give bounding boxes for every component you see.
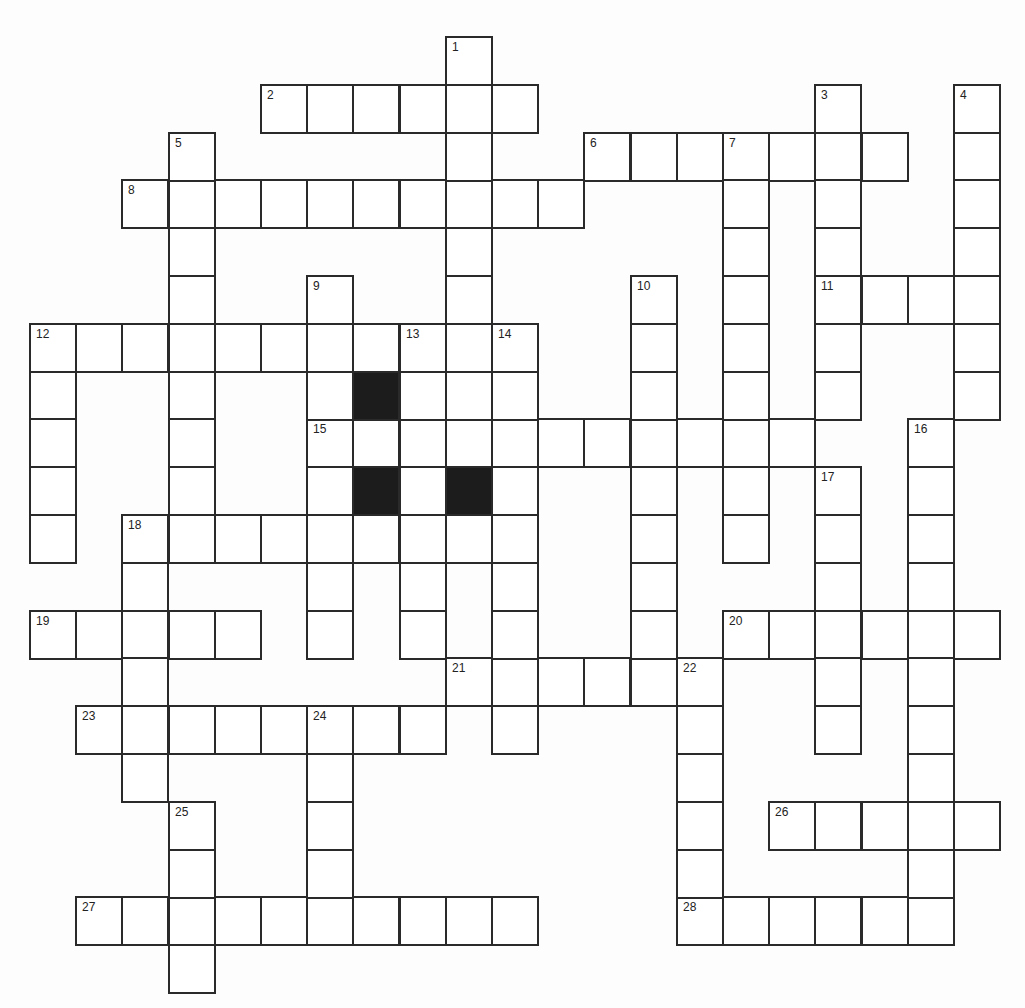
grid-cell[interactable] (306, 84, 354, 134)
grid-cell[interactable]: 26 (768, 801, 816, 851)
grid-cell[interactable] (537, 657, 585, 707)
letter-input[interactable] (493, 86, 537, 132)
grid-cell[interactable] (814, 801, 862, 851)
grid-cell[interactable] (445, 132, 493, 182)
grid-cell[interactable] (630, 514, 678, 564)
letter-input[interactable] (585, 134, 629, 180)
grid-cell[interactable] (306, 562, 354, 612)
grid-cell[interactable] (121, 753, 169, 803)
grid-cell[interactable] (168, 849, 216, 899)
letter-input[interactable] (447, 325, 491, 371)
letter-input[interactable] (632, 420, 676, 466)
grid-cell[interactable] (445, 323, 493, 373)
grid-cell[interactable] (121, 705, 169, 755)
letter-input[interactable] (123, 898, 167, 944)
letter-input[interactable] (170, 420, 214, 466)
grid-cell[interactable] (630, 657, 678, 707)
grid-cell[interactable] (445, 84, 493, 134)
grid-cell[interactable] (814, 323, 862, 373)
letter-input[interactable] (308, 564, 352, 610)
grid-cell[interactable] (29, 466, 77, 516)
grid-cell[interactable] (630, 562, 678, 612)
letter-input[interactable] (123, 181, 167, 227)
letter-input[interactable] (401, 707, 445, 753)
grid-cell[interactable] (814, 132, 862, 182)
grid-cell[interactable]: 24 (306, 705, 354, 755)
grid-cell[interactable]: 9 (306, 275, 354, 325)
grid-cell[interactable]: 25 (168, 801, 216, 851)
grid-cell[interactable] (399, 705, 447, 755)
grid-cell[interactable] (29, 371, 77, 421)
grid-cell[interactable] (722, 371, 770, 421)
grid-cell[interactable] (168, 275, 216, 325)
letter-input[interactable] (539, 420, 583, 466)
letter-input[interactable] (262, 516, 306, 562)
letter-input[interactable] (77, 707, 121, 753)
letter-input[interactable] (170, 229, 214, 275)
grid-cell[interactable] (306, 466, 354, 516)
letter-input[interactable] (170, 277, 214, 323)
letter-input[interactable] (308, 373, 352, 419)
letter-input[interactable] (816, 134, 860, 180)
grid-cell[interactable]: 5 (168, 132, 216, 182)
grid-cell[interactable] (491, 418, 539, 468)
grid-cell[interactable] (121, 657, 169, 707)
letter-input[interactable] (724, 325, 768, 371)
grid-cell[interactable] (399, 466, 447, 516)
grid-cell[interactable]: 23 (75, 705, 123, 755)
grid-cell[interactable] (168, 227, 216, 277)
grid-cell[interactable]: 13 (399, 323, 447, 373)
letter-input[interactable] (308, 420, 352, 466)
grid-cell[interactable] (352, 323, 400, 373)
letter-input[interactable] (308, 755, 352, 801)
letter-input[interactable] (216, 707, 260, 753)
grid-cell[interactable] (399, 371, 447, 421)
letter-input[interactable] (493, 659, 537, 705)
letter-input[interactable] (170, 468, 214, 514)
grid-cell[interactable] (907, 514, 955, 564)
letter-input[interactable] (170, 134, 214, 180)
grid-cell[interactable] (260, 323, 308, 373)
grid-cell[interactable] (630, 371, 678, 421)
letter-input[interactable] (632, 134, 676, 180)
letter-input[interactable] (493, 420, 537, 466)
letter-input[interactable] (724, 516, 768, 562)
letter-input[interactable] (31, 612, 75, 658)
letter-input[interactable] (493, 898, 537, 944)
grid-cell[interactable]: 21 (445, 657, 493, 707)
grid-cell[interactable] (861, 896, 909, 946)
letter-input[interactable] (170, 707, 214, 753)
grid-cell[interactable] (768, 418, 816, 468)
letter-input[interactable] (447, 659, 491, 705)
grid-cell[interactable] (676, 705, 724, 755)
letter-input[interactable] (216, 181, 260, 227)
letter-input[interactable] (724, 420, 768, 466)
grid-cell[interactable]: 2 (260, 84, 308, 134)
letter-input[interactable] (724, 181, 768, 227)
grid-cell[interactable] (168, 514, 216, 564)
grid-cell[interactable] (399, 562, 447, 612)
letter-input[interactable] (909, 516, 953, 562)
letter-input[interactable] (816, 325, 860, 371)
grid-cell[interactable] (168, 179, 216, 229)
letter-input[interactable] (123, 659, 167, 705)
letter-input[interactable] (447, 38, 491, 84)
letter-input[interactable] (170, 373, 214, 419)
letter-input[interactable] (308, 86, 352, 132)
letter-input[interactable] (354, 325, 398, 371)
grid-cell[interactable]: 10 (630, 275, 678, 325)
letter-input[interactable] (77, 898, 121, 944)
letter-input[interactable] (816, 564, 860, 610)
grid-cell[interactable] (630, 132, 678, 182)
grid-cell[interactable] (814, 657, 862, 707)
letter-input[interactable] (724, 134, 768, 180)
letter-input[interactable] (724, 612, 768, 658)
grid-cell[interactable] (630, 323, 678, 373)
letter-input[interactable] (401, 325, 445, 371)
grid-cell[interactable] (352, 514, 400, 564)
letter-input[interactable] (816, 181, 860, 227)
grid-cell[interactable] (260, 514, 308, 564)
letter-input[interactable] (770, 898, 814, 944)
grid-cell[interactable] (722, 323, 770, 373)
grid-cell[interactable] (722, 275, 770, 325)
